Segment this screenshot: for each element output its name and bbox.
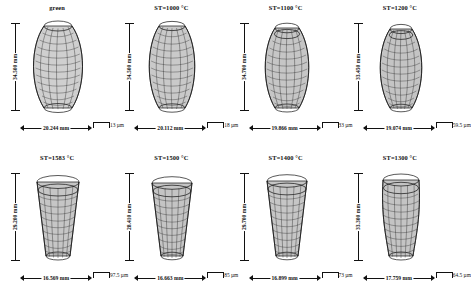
diameter-label: 16.899 mm (270, 276, 299, 282)
scale-bracket-icon (207, 122, 224, 128)
height-label: 34.500 mm (13, 53, 19, 81)
diameter-dimension: 20.112 mm (134, 124, 206, 133)
dimension-cap-bottom (354, 260, 363, 261)
panel-title: ST=1200 °C (343, 4, 457, 11)
height-dimension: 34.500 mm (9, 20, 23, 114)
diameter-dimension: 19.866 mm (249, 124, 321, 133)
diameter-label: 20.112 mm (156, 126, 185, 132)
height-label: 33.300 mm (356, 203, 362, 231)
dimension-cap-bottom (240, 110, 249, 111)
panel-green: green (0, 0, 114, 150)
panel-title: green (0, 4, 114, 11)
height-label: 34.500 mm (127, 53, 133, 81)
vessel-drawing-barrel (22, 16, 94, 117)
arrow-right-icon (88, 125, 92, 131)
scale-bracket-icon (93, 122, 110, 128)
height-label: 29.700 mm (242, 203, 248, 231)
vessel-drawing-cup-flared (365, 166, 437, 267)
scale-bracket-icon (322, 122, 339, 128)
height-dimension: 33.450 mm (352, 20, 366, 114)
scale-bracket-icon (207, 272, 224, 278)
diameter-dimension: 17.759 mm (363, 274, 435, 283)
vessel-drawing-barrel (365, 16, 437, 117)
vessel-drawing-barrel (251, 16, 323, 117)
diameter-dimension: 16.899 mm (249, 274, 321, 283)
height-label: 33.450 mm (356, 53, 362, 81)
panel-st1200: ST=1200 °C (343, 0, 457, 150)
vessel-drawing-cup (22, 166, 94, 267)
panel-title: ST=1300 °C (343, 154, 457, 161)
panel-title: ST=1400 °C (229, 154, 343, 161)
height-dimension: 29.200 mm (9, 170, 23, 264)
scale-bracket-icon (436, 272, 453, 278)
scale-bracket-icon (436, 122, 453, 128)
arrow-right-icon (317, 275, 321, 281)
diameter-label: 19.866 mm (270, 126, 299, 132)
vessel-drawing-barrel (136, 16, 208, 117)
scale-bracket-icon (93, 272, 110, 278)
diameter-label: 19.074 mm (384, 126, 413, 132)
diameter-dimension: 20.244 mm (20, 124, 92, 133)
diameter-dimension: 16.569 mm (20, 274, 92, 283)
diameter-label: 16.569 mm (41, 276, 70, 282)
dimension-cap-bottom (11, 110, 20, 111)
diameter-label: 20.244 mm (41, 126, 70, 132)
panel-st1100: ST=1100 °C (229, 0, 343, 150)
height-label: 28.410 mm (127, 203, 133, 231)
panel-title: ST=1500 °C (114, 154, 228, 161)
vessel-drawing-cup (136, 166, 208, 267)
height-dimension: 33.300 mm (352, 170, 366, 264)
height-label: 34.700 mm (242, 53, 248, 81)
arrow-right-icon (317, 125, 321, 131)
arrow-right-icon (88, 275, 92, 281)
height-dimension: 34.700 mm (238, 20, 252, 114)
height-dimension: 29.700 mm (238, 170, 252, 264)
arrow-right-icon (431, 275, 435, 281)
dimension-cap-bottom (240, 260, 249, 261)
panel-title: ST=1100 °C (229, 4, 343, 11)
dimension-cap-bottom (11, 260, 20, 261)
arrow-right-icon (431, 125, 435, 131)
thickness-label: 59.5 µm (453, 123, 471, 128)
vessel-drawing-cup (251, 166, 323, 267)
height-label: 29.200 mm (13, 203, 19, 231)
arrow-right-icon (202, 275, 206, 281)
panel-title: ST=1583 °C (0, 154, 114, 161)
arrow-right-icon (202, 125, 206, 131)
panel-row-bottom: ST=1583 °C (0, 150, 457, 300)
panel-st1000: ST=1000 °C (114, 0, 228, 150)
diameter-label: 16.663 mm (156, 276, 185, 282)
panel-row-top: green (0, 0, 457, 150)
diameter-dimension: 19.074 mm (363, 124, 435, 133)
diameter-label: 17.759 mm (384, 276, 413, 282)
thickness-label: 64.5 µm (453, 273, 471, 278)
diameter-dimension: 16.663 mm (134, 274, 206, 283)
dimension-cap-bottom (125, 110, 134, 111)
dimension-cap-bottom (125, 260, 134, 261)
panel-title: ST=1000 °C (114, 4, 228, 11)
panel-st1500: ST=1500 °C (114, 150, 228, 300)
panel-st1583: ST=1583 °C (0, 150, 114, 300)
panel-st1300: ST=1300 °C (343, 150, 457, 300)
dimension-cap-bottom (354, 110, 363, 111)
height-dimension: 28.410 mm (123, 170, 137, 264)
panel-st1400: ST=1400 °C (229, 150, 343, 300)
scale-bracket-icon (322, 272, 339, 278)
height-dimension: 34.500 mm (123, 20, 137, 114)
